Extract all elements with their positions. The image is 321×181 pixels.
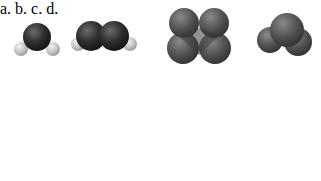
molecule-a2: [71, 21, 137, 51]
molecule-b2: [257, 13, 312, 56]
molecule-a1: [14, 23, 60, 56]
molecule-figure: [0, 0, 321, 181]
molecule-b1: [167, 8, 231, 64]
